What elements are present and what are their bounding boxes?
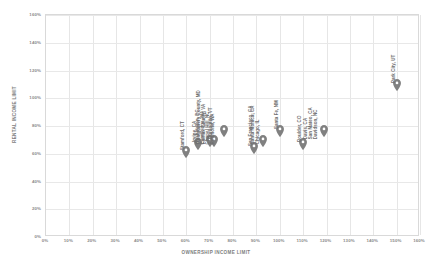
data-point-marker[interactable] bbox=[219, 125, 228, 137]
x-tick-label: 0% bbox=[42, 238, 49, 243]
data-point-label: Washington, DCCambridge, MAChapel Hill, … bbox=[195, 109, 215, 144]
gridline-vertical bbox=[186, 15, 187, 235]
data-point-label-line: Stamford, CT bbox=[180, 121, 185, 150]
plot-area: Stamford, CTIrvine, CAMontgomery County,… bbox=[45, 14, 419, 236]
data-point-label: Santa Fe, NM bbox=[274, 100, 279, 129]
gridline-vertical bbox=[420, 15, 421, 235]
x-tick-label: 140% bbox=[366, 238, 378, 243]
y-tick-label: 80% bbox=[32, 123, 41, 128]
x-tick-label: 130% bbox=[343, 238, 355, 243]
x-tick-label: 30% bbox=[111, 238, 120, 243]
data-point-label-line: Boulder, CO bbox=[297, 115, 302, 142]
y-tick-label: 60% bbox=[32, 150, 41, 155]
gridline-horizontal bbox=[46, 209, 418, 210]
gridline-horizontal bbox=[46, 154, 418, 155]
gridline-vertical bbox=[116, 15, 117, 235]
x-tick-label: 100% bbox=[273, 238, 285, 243]
gridline-vertical bbox=[350, 15, 351, 235]
data-point-label: Stamford, CT bbox=[180, 121, 185, 150]
gridline-horizontal bbox=[46, 43, 418, 44]
x-tick-label: 160% bbox=[413, 238, 425, 243]
y-tick-label: 100% bbox=[29, 95, 41, 100]
y-tick-label: 120% bbox=[29, 67, 41, 72]
y-tick-label: 140% bbox=[29, 39, 41, 44]
gridline-vertical bbox=[373, 15, 374, 235]
y-axis-title: RENTAL INCOME LIMIT bbox=[12, 55, 17, 175]
data-point-label-line: Davidson, NC bbox=[313, 107, 318, 139]
data-point-label-line: Redmond, WA bbox=[210, 109, 215, 144]
data-point-label-line: Park City, UT bbox=[390, 55, 395, 83]
x-tick-label: 80% bbox=[227, 238, 236, 243]
x-tick-label: 40% bbox=[134, 238, 143, 243]
y-tick-label: 40% bbox=[32, 178, 41, 183]
gridline-vertical bbox=[140, 15, 141, 235]
data-point-marker[interactable] bbox=[320, 125, 329, 137]
y-tick-label: 160% bbox=[29, 12, 41, 17]
x-tick-label: 110% bbox=[296, 238, 307, 243]
data-point-label: Davis, CASan Mateo, CADavidson, NC bbox=[303, 107, 318, 139]
x-tick-label: 50% bbox=[157, 238, 166, 243]
gridline-horizontal bbox=[46, 126, 418, 127]
x-tick-label: 20% bbox=[87, 238, 96, 243]
gridline-horizontal bbox=[46, 182, 418, 183]
data-point-marker[interactable] bbox=[259, 135, 268, 147]
gridline-vertical bbox=[233, 15, 234, 235]
y-axis-ticks: 0%20%40%60%80%100%120%140%160% bbox=[0, 14, 41, 236]
gridline-vertical bbox=[397, 15, 398, 235]
x-tick-label: 70% bbox=[204, 238, 213, 243]
data-point-label-line: Chicago, IL bbox=[255, 105, 260, 144]
x-axis-ticks: 0%10%20%30%40%50%60%70%80%90%100%110%120… bbox=[45, 238, 419, 250]
x-tick-label: 10% bbox=[64, 238, 73, 243]
gridline-vertical bbox=[93, 15, 94, 235]
x-tick-label: 60% bbox=[181, 238, 190, 243]
gridline-vertical bbox=[163, 15, 164, 235]
data-point-label-line: Santa Fe, NM bbox=[274, 100, 279, 129]
gridline-vertical bbox=[69, 15, 70, 235]
x-tick-label: 150% bbox=[390, 238, 402, 243]
gridline-horizontal bbox=[46, 71, 418, 72]
data-point-label: Santa Monica, CAChicago, IL bbox=[250, 105, 260, 144]
scatter-chart: Stamford, CTIrvine, CAMontgomery County,… bbox=[0, 0, 432, 264]
x-tick-label: 90% bbox=[251, 238, 260, 243]
data-point-label: Boulder, CO bbox=[297, 115, 302, 142]
y-tick-label: 20% bbox=[32, 206, 41, 211]
x-axis-title: OWNERSHIP INCOME LIMIT bbox=[0, 250, 432, 255]
y-tick-label: 0% bbox=[34, 234, 41, 239]
x-tick-label: 120% bbox=[320, 238, 332, 243]
gridline-horizontal bbox=[46, 98, 418, 99]
gridline-horizontal bbox=[46, 15, 418, 16]
data-point-label: Park City, UT bbox=[390, 55, 395, 83]
